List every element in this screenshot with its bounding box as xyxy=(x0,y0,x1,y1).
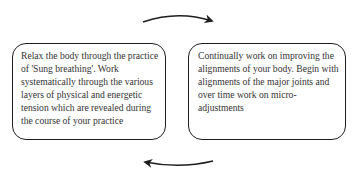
step-text-relax: Relax the body through the practice of '… xyxy=(21,50,158,126)
step-text-alignment: Continually work on improving the alignm… xyxy=(198,50,339,113)
step-box-relax: Relax the body through the practice of '… xyxy=(12,43,166,140)
bottom-arrow-left-icon xyxy=(145,161,213,165)
top-arrow-right-icon xyxy=(143,16,212,22)
step-box-alignment: Continually work on improving the alignm… xyxy=(188,43,346,140)
